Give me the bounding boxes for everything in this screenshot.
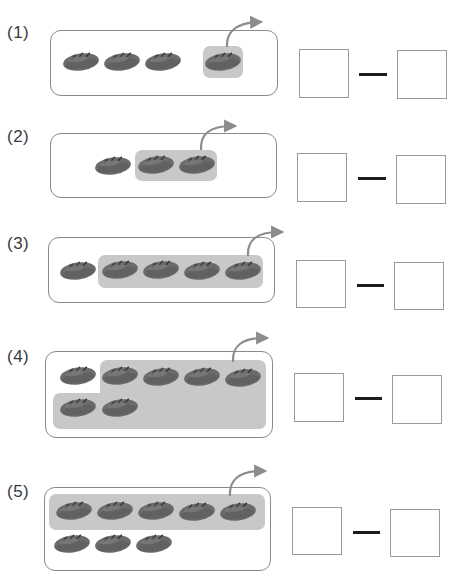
bread-icon	[144, 51, 182, 73]
curved-arrow-icon	[233, 338, 264, 362]
bread-icon	[204, 51, 242, 73]
bread-icon	[178, 501, 216, 523]
curved-arrow-icon	[230, 471, 262, 496]
bread-icon	[101, 259, 139, 281]
bread-icon	[137, 154, 175, 176]
bread-icon	[62, 51, 100, 73]
bread-icon	[59, 260, 97, 282]
bread-icon	[178, 154, 216, 176]
bread-icon	[142, 259, 180, 281]
bread-icon	[53, 533, 91, 555]
bread-icon	[224, 367, 262, 389]
bread-icon	[224, 260, 262, 282]
bread-and-arrow-layer	[0, 0, 458, 581]
curved-arrow-icon	[201, 126, 232, 150]
bread-icon	[135, 533, 173, 555]
bread-icon	[96, 500, 134, 522]
bread-icon	[101, 397, 139, 419]
bread-icon	[94, 533, 132, 555]
bread-icon	[103, 51, 141, 73]
bread-icon	[219, 501, 257, 523]
bread-icon	[59, 397, 97, 419]
curved-arrow-icon	[227, 22, 258, 47]
bread-icon	[183, 366, 221, 388]
bread-icon	[101, 365, 139, 387]
bread-icon	[183, 260, 221, 282]
curved-arrow-icon	[248, 232, 279, 256]
bread-icon	[142, 366, 180, 388]
bread-icon	[137, 500, 175, 522]
bread-icon	[94, 155, 132, 177]
bread-icon	[55, 500, 93, 522]
bread-icon	[59, 365, 97, 387]
